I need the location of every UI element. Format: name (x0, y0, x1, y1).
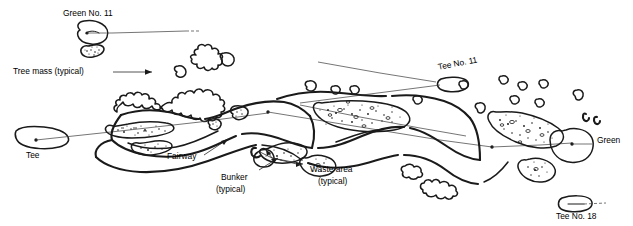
course-plan-svg (0, 0, 633, 226)
leader-tee-11 (300, 85, 440, 103)
label-green-no-11: Green No. 11 (63, 8, 113, 18)
tee-no-11-shape (437, 77, 468, 92)
bunker-cluster (105, 106, 307, 163)
tree-mass-cluster (114, 45, 234, 122)
play-line-green-11 (87, 31, 186, 33)
arrowhead-tree-mass (145, 69, 152, 74)
label-fairway: Fairway (167, 151, 196, 161)
play-line-tee-11 (318, 62, 436, 82)
arrowhead-fairway (221, 139, 228, 145)
label-tee: Tee (26, 150, 40, 160)
label-tree-mass: Tree mass (typical) (13, 66, 84, 76)
label-tee-no-18: Tee No. 18 (556, 211, 597, 221)
label-bunker-line1: Bunker (221, 172, 248, 182)
golf-course-routing-diagram: Green No. 11 Tree mass (typical) Tee Fai… (0, 0, 633, 226)
label-waste-line2: (typical) (318, 176, 347, 186)
green-no-11-bunker (81, 45, 104, 58)
tree-marks-right (583, 114, 600, 124)
label-waste-line1: Waste area (310, 164, 353, 174)
lower-center-tree-blob (420, 179, 457, 199)
green-no-11-shape (78, 21, 108, 45)
label-green: Green (597, 135, 620, 145)
label-bunker-line2: (typical) (216, 184, 245, 194)
tee-no-18-shape (558, 196, 606, 212)
lower-center-tree-blob-2 (401, 164, 422, 179)
